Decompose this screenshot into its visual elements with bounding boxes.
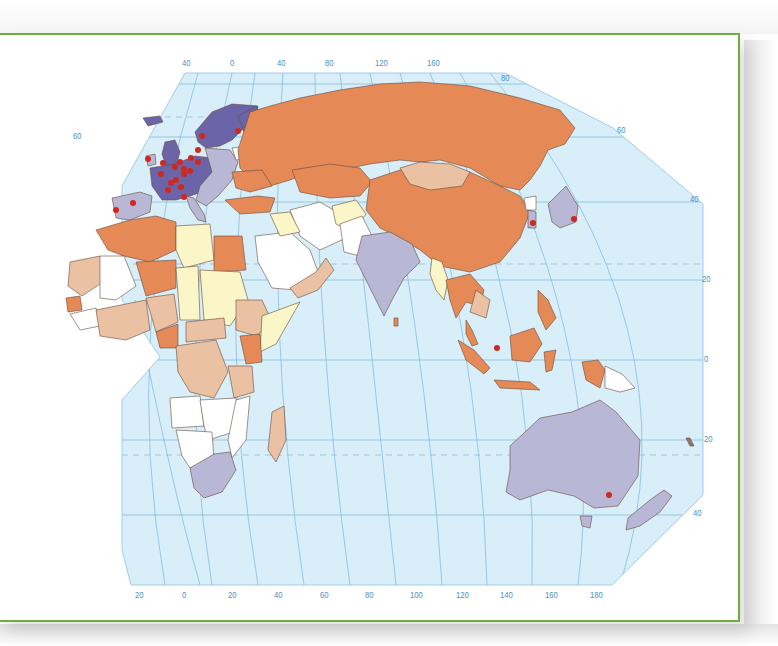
latitude-label: 0 — [704, 354, 708, 364]
marker — [187, 168, 193, 174]
longitude-label: 80 — [365, 590, 374, 600]
marker — [199, 133, 205, 139]
country-morocco-algeria — [96, 216, 176, 262]
country-libya — [176, 224, 214, 268]
marker — [494, 345, 500, 351]
country-kazakhstan — [292, 164, 372, 198]
longitude-label: 100 — [410, 590, 423, 600]
longitude-label: 40 — [277, 58, 286, 68]
longitude-label: 140 — [500, 590, 513, 600]
longitude-label: 160 — [545, 590, 558, 600]
marker — [188, 155, 194, 161]
marker — [178, 184, 184, 190]
longitude-label: 0 — [230, 58, 234, 68]
marker — [145, 156, 151, 162]
country-central-african — [186, 318, 226, 342]
longitude-label: 120 — [456, 590, 469, 600]
longitude-label: 180 — [590, 590, 603, 600]
marker — [235, 128, 241, 134]
country-chad — [176, 266, 200, 320]
marker — [606, 492, 612, 498]
longitude-label: 0 — [182, 590, 186, 600]
marker — [195, 147, 201, 153]
marker — [571, 216, 577, 222]
latitude-label: 40 — [693, 508, 702, 518]
longitude-label: 60 — [320, 590, 329, 600]
country-sri-lanka — [394, 318, 398, 326]
longitude-label: 160 — [427, 58, 440, 68]
marker — [172, 164, 178, 170]
marker — [168, 180, 174, 186]
marker — [195, 159, 201, 165]
longitude-label: 20 — [228, 590, 237, 600]
marker — [530, 220, 536, 226]
marker — [165, 187, 171, 193]
longitude-label: 20 — [135, 590, 144, 600]
country-egypt — [214, 236, 246, 272]
country-north-korea — [524, 196, 536, 210]
latitude-label: 20 — [702, 274, 711, 284]
latitude-label: 60 — [73, 131, 82, 141]
latitude-label: 20 — [704, 434, 713, 444]
country-west-africa-coast — [96, 300, 150, 340]
marker — [160, 160, 166, 166]
marker — [130, 200, 136, 206]
world-map — [0, 0, 778, 646]
country-senegal — [66, 296, 82, 312]
latitude-label: 60 — [617, 125, 626, 135]
longitude-label: 40 — [274, 590, 283, 600]
longitude-label: 120 — [375, 58, 388, 68]
longitude-label: 40 — [182, 58, 191, 68]
marker — [158, 171, 164, 177]
longitude-label: 80 — [325, 58, 334, 68]
marker — [181, 194, 187, 200]
latitude-label: 40 — [690, 194, 699, 204]
marker — [173, 177, 179, 183]
marker — [113, 207, 119, 213]
latitude-label: 80 — [501, 73, 510, 83]
marker — [177, 159, 183, 165]
country-tasmania — [580, 516, 592, 528]
country-angola — [170, 396, 204, 428]
marker — [181, 171, 187, 177]
